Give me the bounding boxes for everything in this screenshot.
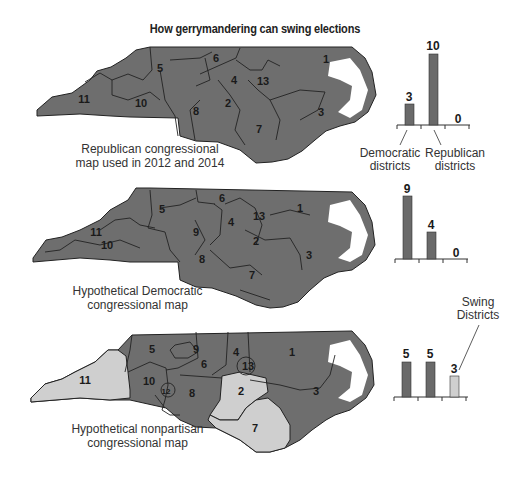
bar-value: 3 — [406, 90, 413, 104]
note-republican: Republican — [425, 146, 485, 160]
bar-republican — [426, 362, 435, 397]
bar-swing — [450, 376, 459, 397]
bar-value: 4 — [428, 218, 435, 232]
bar-chart-democratic: 9 4 0 — [395, 182, 468, 263]
bar-chart-republican: 3 10 0 Democratic districts Republican d… — [360, 39, 485, 173]
note-swing: Swing — [462, 295, 495, 309]
bar-chart-nonpartisan: 5 5 3 Swing Districts — [394, 295, 499, 401]
note-swing: Districts — [457, 308, 500, 322]
note-democratic: Democratic — [360, 146, 421, 160]
bar-value: 0 — [455, 112, 462, 126]
bar-value: 3 — [451, 362, 458, 376]
bar-value: 9 — [404, 182, 411, 196]
bar-democratic — [402, 362, 411, 397]
bar-republican — [429, 54, 438, 125]
bar-value: 5 — [427, 347, 434, 361]
bar-charts: 3 10 0 Democratic districts Republican d… — [0, 0, 510, 478]
note-democratic: districts — [370, 159, 411, 173]
bar-democratic — [403, 196, 412, 259]
bar-democratic — [405, 104, 414, 125]
bar-value: 5 — [403, 347, 410, 361]
bar-value: 10 — [426, 39, 440, 53]
bar-value: 0 — [453, 246, 460, 260]
bar-republican — [427, 232, 436, 259]
note-republican: districts — [435, 159, 476, 173]
